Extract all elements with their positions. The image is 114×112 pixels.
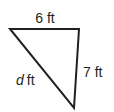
hypotenuse-variable: d [16,72,25,88]
triangle [10,29,79,108]
top-side-label: 6 ft [35,10,55,26]
triangle-diagram: 6 ft 7 ft dft [0,0,114,112]
hypotenuse-unit: ft [27,72,35,88]
hypotenuse-label: dft [16,72,35,88]
right-side-label: 7 ft [83,64,103,80]
